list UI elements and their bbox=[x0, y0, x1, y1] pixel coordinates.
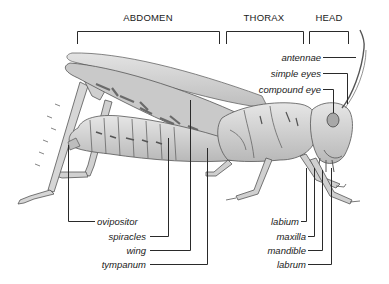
head-bracket bbox=[310, 32, 349, 45]
label-mandible: mandible bbox=[267, 245, 306, 256]
label-maxilla: maxilla bbox=[276, 231, 306, 242]
abdomen-bracket bbox=[78, 32, 220, 45]
leader-simple-eyes bbox=[323, 74, 348, 105]
grasshopper-illustration bbox=[0, 0, 389, 284]
thorax-bracket bbox=[227, 32, 304, 45]
label-labrum: labrum bbox=[277, 259, 306, 270]
grasshopper-diagram: ABDOMEN THORAX HEAD ovipositor spiracles… bbox=[0, 0, 389, 284]
label-labium: labium bbox=[271, 216, 299, 227]
leader-maxilla bbox=[308, 168, 315, 237]
region-label-abdomen: ABDOMEN bbox=[118, 12, 178, 23]
label-wing: wing bbox=[126, 245, 146, 256]
region-brackets bbox=[78, 32, 349, 45]
label-simple-eyes: simple eyes bbox=[271, 68, 321, 79]
label-spiracles: spiracles bbox=[109, 231, 147, 242]
label-antennae: antennae bbox=[281, 52, 321, 63]
region-label-head: HEAD bbox=[309, 12, 349, 23]
label-ovipositor: ovipositor bbox=[97, 216, 138, 227]
region-label-thorax: THORAX bbox=[236, 12, 292, 23]
compound-eye-shape bbox=[327, 113, 339, 127]
label-tympanum: tympanum bbox=[102, 259, 146, 270]
leader-tympanum bbox=[150, 148, 208, 265]
label-compound-eye: compound eye bbox=[259, 84, 321, 95]
leader-labium bbox=[301, 168, 307, 222]
